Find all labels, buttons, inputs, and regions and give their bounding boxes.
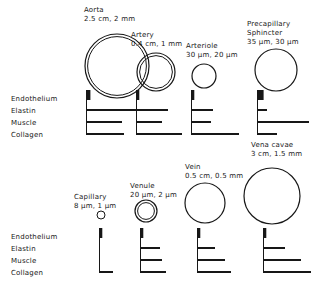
layer-bar-collagen xyxy=(99,271,113,273)
layer-bar-endothelium xyxy=(197,228,200,238)
vessel-group-artery xyxy=(136,53,182,135)
lumen-outer-circle xyxy=(185,183,225,223)
layer-bar-endothelium xyxy=(257,90,264,100)
layer-bar-endothelium xyxy=(136,90,139,100)
vessel-wall-diagram: Endothelium Elastin Muscle Collagen Endo… xyxy=(0,0,324,292)
vessel-group-vein xyxy=(185,183,231,273)
layer-bar-elastin xyxy=(257,109,267,111)
layer-bar-collagen xyxy=(86,133,124,135)
layer-bar-collagen xyxy=(136,133,182,135)
vessel-group-venule xyxy=(135,200,166,273)
layer-bar-collagen xyxy=(140,271,166,273)
lumen-inner-circle xyxy=(140,56,173,89)
lumen-outer-circle xyxy=(244,168,300,224)
vessel-group-arteriole xyxy=(191,64,239,135)
vessel-group-capillary xyxy=(97,211,113,273)
layer-bar-endothelium xyxy=(86,90,90,100)
layer-bar-collagen xyxy=(257,133,277,135)
layer-bar-muscle xyxy=(136,121,162,123)
lumen-outer-circle xyxy=(97,211,105,219)
layer-bar-collagen xyxy=(263,271,311,273)
lumen-outer-circle xyxy=(85,34,149,98)
layer-bar-muscle xyxy=(197,259,225,261)
vessel-group-vena-cavae xyxy=(244,168,311,273)
layer-bar-elastin xyxy=(136,109,168,111)
diagram-graphics xyxy=(0,0,324,292)
layer-bar-muscle xyxy=(86,121,122,123)
layer-bar-collagen xyxy=(197,271,231,273)
vessel-group-aorta xyxy=(85,34,149,135)
layer-bar-endothelium xyxy=(140,228,143,238)
lumen-outer-circle xyxy=(135,200,157,222)
layer-bar-muscle xyxy=(140,259,162,261)
layer-bar-elastin xyxy=(191,109,213,111)
layer-bar-elastin xyxy=(197,247,215,249)
layer-bar-endothelium xyxy=(99,228,102,238)
layer-bar-muscle xyxy=(263,259,301,261)
lumen-outer-circle xyxy=(255,49,297,91)
lumen-outer-circle xyxy=(137,53,175,91)
layer-bar-elastin xyxy=(140,247,160,249)
layer-bar-endothelium xyxy=(263,228,266,238)
layer-bar-endothelium xyxy=(191,90,194,100)
lumen-outer-circle xyxy=(192,64,216,88)
layer-bar-elastin xyxy=(263,247,285,249)
lumen-inner-circle xyxy=(138,203,155,220)
layer-bar-collagen xyxy=(191,133,239,135)
layer-bar-muscle xyxy=(257,121,309,123)
vessel-group-precapillary-sphincter xyxy=(255,49,309,135)
layer-bar-muscle xyxy=(191,121,211,123)
